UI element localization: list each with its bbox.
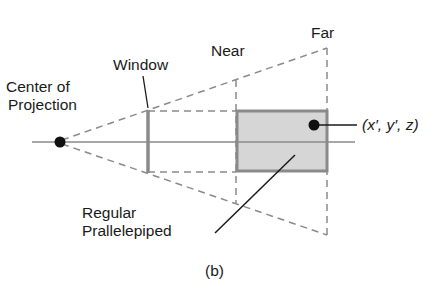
point-label: (x′, y′, z) bbox=[362, 116, 419, 134]
window-label: Window bbox=[113, 56, 168, 74]
regular-label-line1: Regular bbox=[82, 204, 136, 222]
regular-label-line2: Prallelepiped bbox=[82, 222, 172, 240]
far-label: Far bbox=[311, 24, 334, 42]
center-label-line2: Projection bbox=[8, 96, 77, 114]
window-leader bbox=[143, 76, 148, 108]
center-of-projection-dot bbox=[55, 137, 66, 148]
point-dot bbox=[309, 120, 320, 131]
center-label-line1: Center of bbox=[6, 78, 70, 96]
figure-caption: (b) bbox=[205, 262, 224, 280]
near-label: Near bbox=[211, 42, 245, 60]
